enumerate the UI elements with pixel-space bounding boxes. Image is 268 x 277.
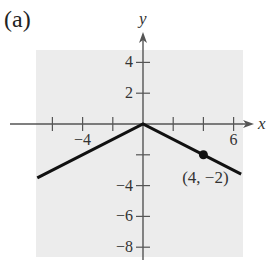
plot-background xyxy=(36,50,243,257)
x-tick-label: −4 xyxy=(74,131,91,148)
y-tick-label: −4 xyxy=(116,177,133,194)
y-tick-label: −8 xyxy=(116,238,133,255)
y-tick-label: 4 xyxy=(125,53,133,70)
chart: −4642−4−6−8 (4, −2) x y xyxy=(0,0,268,277)
data-point-label: (4, −2) xyxy=(182,168,228,187)
y-axis-label: y xyxy=(137,9,147,28)
y-tick-label: 2 xyxy=(125,84,133,101)
x-axis-label: x xyxy=(257,114,266,133)
y-tick-label: −6 xyxy=(116,207,133,224)
data-point-marker xyxy=(199,150,208,159)
x-tick-label: 6 xyxy=(230,131,238,148)
